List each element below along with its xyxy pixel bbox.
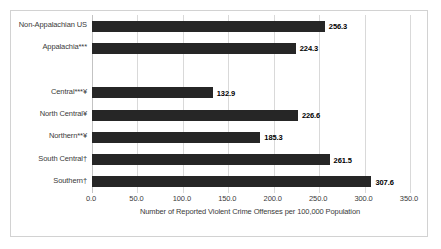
bar (92, 176, 371, 187)
bar-value-label: 256.3 (329, 22, 347, 31)
bar-row: 226.6 (92, 110, 410, 121)
x-axis-tick-labels: 0.050.0100.0150.0200.0250.0300.0350.0 (0, 194, 441, 206)
bar-row: 185.3 (92, 132, 410, 143)
x-tick-label: 250.0 (309, 194, 327, 203)
x-tick-label: 350.0 (400, 194, 418, 203)
bar-value-label: 224.3 (300, 44, 318, 53)
x-tick-label: 100.0 (173, 194, 191, 203)
x-tick-label: 200.0 (264, 194, 282, 203)
gridline (319, 15, 320, 193)
bar-row: 132.9 (92, 87, 410, 98)
bar-value-label: 307.6 (375, 177, 393, 186)
bar (92, 43, 296, 54)
bar-row: 224.3 (92, 43, 410, 54)
category-axis-labels: Non-Appalachian USAppalachia***Central**… (10, 14, 87, 192)
bar (92, 87, 213, 98)
bar-value-label: 132.9 (217, 88, 235, 97)
category-label: South Central† (38, 154, 87, 163)
bar-value-label: 226.6 (302, 111, 320, 120)
value-axis-line (92, 15, 93, 193)
gridline (228, 15, 229, 193)
bar-row: 256.3 (92, 21, 410, 32)
gridline (137, 15, 138, 193)
category-label: Central***¥ (51, 87, 87, 96)
bar (92, 132, 260, 143)
gridline (365, 15, 366, 193)
bar (92, 21, 325, 32)
bar-row: 307.6 (92, 176, 410, 187)
category-label: North Central¥ (40, 109, 87, 118)
category-label: Non-Appalachian US (19, 20, 87, 29)
bar-value-label: 185.3 (264, 133, 282, 142)
category-label: Southern† (53, 176, 87, 185)
x-tick-label: 150.0 (218, 194, 236, 203)
x-axis-title: Number of Reported Violent Crime Offense… (91, 207, 409, 216)
bar-row: 261.5 (92, 154, 410, 165)
category-label: Appalachia*** (42, 42, 87, 51)
bar-value-label: 261.5 (334, 155, 352, 164)
chart-screenshot: 256.3224.3132.9226.6185.3261.5307.6 Non-… (0, 0, 441, 249)
gridline (183, 15, 184, 193)
gridline (410, 15, 411, 193)
plot-area: 256.3224.3132.9226.6185.3261.5307.6 (92, 15, 410, 193)
x-tick-label: 50.0 (129, 194, 143, 203)
bar (92, 110, 298, 121)
gridline (274, 15, 275, 193)
x-tick-label: 300.0 (354, 194, 372, 203)
category-label: Northern**¥ (49, 131, 87, 140)
bar (92, 154, 330, 165)
x-tick-label: 0.0 (86, 194, 96, 203)
